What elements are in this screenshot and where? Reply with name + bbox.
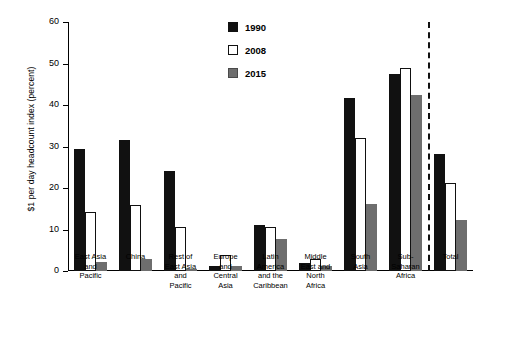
x-axis-category-label: Latin America and the Caribbean xyxy=(248,252,293,290)
x-axis-category-label: Europe and Central Asia xyxy=(203,252,248,290)
bar-group-bars xyxy=(113,22,158,271)
bar-group xyxy=(383,22,428,271)
bar-1990 xyxy=(389,74,400,271)
y-tick-label: 20 xyxy=(29,182,59,192)
legend-item-2008: 2008 xyxy=(228,45,266,55)
x-axis-category-label: Rest of East Asia and Pacific xyxy=(158,252,203,290)
bar-group xyxy=(293,22,338,271)
legend-label-2015: 2015 xyxy=(245,68,266,79)
y-tick-label: 40 xyxy=(29,99,59,109)
bar-1990 xyxy=(344,98,355,271)
x-axis-category-label: Sub- Saharan Africa xyxy=(383,252,428,281)
legend-item-1990: 1990 xyxy=(228,22,266,32)
y-tick-label: 0 xyxy=(29,265,59,275)
y-tick-label: 60 xyxy=(29,16,59,26)
bar-group-bars xyxy=(293,22,338,271)
bar-chart: $1 per day headcount index (percent) 010… xyxy=(0,0,505,337)
bar-2015 xyxy=(411,95,422,271)
plot-area: 0102030405060 xyxy=(68,22,473,271)
bar-group xyxy=(428,22,473,271)
bar-group xyxy=(158,22,203,271)
bar-group-bars xyxy=(158,22,203,271)
y-tick-label: 30 xyxy=(29,141,59,151)
bar-group xyxy=(68,22,113,271)
bar-group xyxy=(113,22,158,271)
x-axis-category-label: East Asia and Pacific xyxy=(68,252,113,281)
bar-group-bars xyxy=(428,22,473,271)
bar-group-bars xyxy=(383,22,428,271)
bar-group-bars xyxy=(338,22,383,271)
legend-item-2015: 2015 xyxy=(228,68,266,78)
chart-legend: 1990 2008 2015 xyxy=(228,22,266,91)
legend-swatch-2008-icon xyxy=(228,45,238,55)
x-axis-category-label: China xyxy=(113,252,158,262)
x-axis-category-label: Total xyxy=(428,252,473,262)
legend-swatch-1990-icon xyxy=(228,22,238,32)
bar-group-bars xyxy=(68,22,113,271)
legend-label-1990: 1990 xyxy=(245,22,266,33)
x-axis-category-label: Middle East and North Africa xyxy=(293,252,338,290)
x-axis-category-label: South Asia xyxy=(338,252,383,271)
bar-2015 xyxy=(456,220,467,271)
total-divider-line xyxy=(428,22,430,271)
bar-2008 xyxy=(400,68,411,271)
y-tick-label: 10 xyxy=(29,224,59,234)
legend-swatch-2015-icon xyxy=(228,68,238,78)
bar-group xyxy=(338,22,383,271)
legend-label-2008: 2008 xyxy=(245,45,266,56)
y-tick-label: 50 xyxy=(29,58,59,68)
